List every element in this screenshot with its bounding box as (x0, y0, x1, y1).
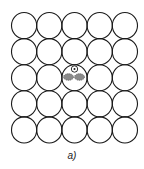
lattice-circle (12, 65, 37, 91)
circle-lattice-diagram (0, 0, 144, 169)
lattice-circle (62, 91, 87, 117)
lattice-circle (37, 12, 62, 38)
lattice-circle (37, 39, 62, 65)
lattice-circle (12, 117, 37, 143)
lattice-circle (87, 39, 112, 65)
lattice-circle (112, 39, 137, 65)
lattice-circle (87, 91, 112, 117)
lattice-circle (37, 117, 62, 143)
lattice-circle (87, 12, 112, 38)
lattice-circle (112, 12, 137, 38)
lattice-circle (12, 39, 37, 65)
lattice-circle (112, 117, 137, 143)
lattice-circle (37, 65, 62, 91)
lattice-circle (87, 65, 112, 91)
lattice-circle (112, 65, 137, 91)
lattice-circle (87, 117, 112, 143)
dumbbell-ellipse (64, 74, 74, 81)
lattice-circle (12, 12, 37, 38)
lattice-circle (62, 39, 87, 65)
dumbbell-ellipse (75, 74, 85, 81)
lattice-circle (62, 117, 87, 143)
lattice-circle (12, 91, 37, 117)
figure-caption: a) (0, 150, 144, 161)
small-atom-dot (74, 68, 76, 70)
lattice-circle (37, 91, 62, 117)
lattice-circle (112, 91, 137, 117)
lattice-circle (62, 12, 87, 38)
